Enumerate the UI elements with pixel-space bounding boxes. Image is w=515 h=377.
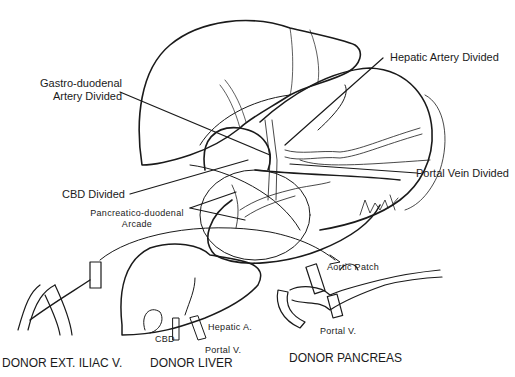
- label-pancreas-portal-v: Portal V.: [320, 326, 356, 337]
- caption-donor-ext-iliac-v: DONOR EXT. ILIAC V.: [2, 357, 122, 370]
- label-pancreaticoduodenal-arcade: Pancreatico-duodenal Arcade: [82, 208, 192, 230]
- liver-hilum-vessels: [173, 278, 206, 340]
- liver-outline: [139, 21, 360, 165]
- caption-donor-liver: DONOR LIVER: [150, 357, 233, 370]
- label-portal-vein-divided: Portal Vein Divided: [416, 167, 509, 180]
- donor-pancreas: [277, 264, 442, 328]
- stomach-outline: [260, 68, 432, 230]
- caption-donor-pancreas: DONOR PANCREAS: [289, 352, 402, 365]
- omentum: [405, 95, 445, 210]
- label-text: Gastro-duodenal: [36, 77, 122, 90]
- label-gastroduodenal-artery: Gastro-duodenal Artery Divided: [36, 77, 122, 103]
- label-cbd-divided: CBD Divided: [62, 188, 125, 201]
- label-aortic-patch: Aortic Patch: [327, 262, 379, 273]
- label-text: Artery Divided: [36, 90, 122, 103]
- label-hepatic-artery: Hepatic Artery Divided: [390, 51, 499, 64]
- vessels: [232, 120, 430, 228]
- duodenum-loop: [204, 128, 400, 264]
- label-liver-hepatic-a: Hepatic A.: [208, 322, 252, 333]
- label-liver-portal-v: Portal V.: [205, 345, 241, 356]
- label-liver-cbd: CBD: [155, 334, 175, 345]
- label-text: Pancreatico-duodenal: [82, 208, 192, 219]
- label-text: Arcade: [82, 219, 192, 230]
